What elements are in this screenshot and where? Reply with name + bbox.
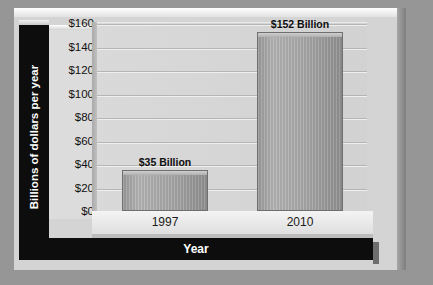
bar-top-face	[257, 32, 343, 37]
bar-top-face	[122, 170, 208, 175]
y-axis-tick-label: $160	[68, 17, 94, 29]
plaque-top-bevel	[14, 8, 406, 17]
y-axis-title-band: Billions of dollars per year	[19, 20, 49, 254]
bar	[257, 32, 343, 211]
bar-face	[257, 32, 343, 211]
plaque-right-bevel	[397, 8, 406, 270]
y-axis-tick-label: $120	[68, 64, 94, 76]
y-axis-tick-label: $140	[68, 41, 94, 53]
x-axis-tick-label: 2010	[237, 215, 363, 229]
bar-value-label: $35 Billion	[102, 156, 228, 168]
x-axis-tick-label: 1997	[102, 215, 228, 229]
bar-face	[122, 170, 208, 211]
y-axis-tick-label: $100	[68, 88, 94, 100]
x-axis-title: Year	[19, 238, 373, 260]
x-axis-title-band: Year	[19, 238, 373, 260]
y-axis-title: Billions of dollars per year	[28, 65, 40, 209]
y-axis-tick-column: $160$140$120$100$80$60$40$20$0	[49, 25, 97, 219]
bar	[122, 170, 208, 211]
bar-value-label: $152 Billion	[237, 18, 363, 30]
chart-screenshot: Billions of dollars per year $160$140$12…	[0, 0, 433, 285]
x-axis-band-shadow	[373, 242, 379, 264]
